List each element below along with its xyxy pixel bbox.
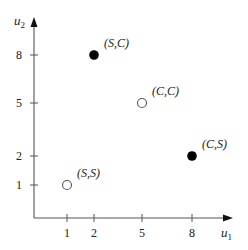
filled-point-marker [187,151,197,161]
y-axis-arrow-icon [31,17,38,27]
y-tick-label: 2 [16,149,22,163]
payoff-scatter-chart: 1258 1258 u1 u2 (S,C)(C,C)(C,S)(S,S) [0,0,248,250]
x-tick-label: 5 [139,226,145,240]
hollow-point-marker [63,181,72,190]
x-tick-label: 8 [189,226,195,240]
y-tick-label: 8 [16,48,22,62]
x-axis-arrow-icon [223,215,233,222]
y-ticks: 1258 [16,48,38,192]
x-axis-label: u1 [221,225,232,242]
y-tick-label: 5 [16,96,22,110]
hollow-point-marker [138,99,147,108]
data-points: (S,C)(C,C)(C,S)(S,S) [63,36,228,190]
y-tick-label: 1 [16,178,22,192]
x-tick-label: 1 [64,226,70,240]
y-axis-label: u2 [14,13,25,30]
axes [31,17,234,222]
data-point: (S,S) [63,166,101,190]
x-tick-label: 2 [91,226,97,240]
filled-point-marker [89,50,99,60]
data-point: (C,C) [138,84,180,108]
point-label: (S,S) [77,166,100,180]
point-label: (C,C) [152,84,179,98]
point-label: (S,C) [104,36,129,50]
data-point: (C,S) [187,137,227,161]
data-point: (S,C) [89,36,129,60]
point-label: (C,S) [202,137,227,151]
